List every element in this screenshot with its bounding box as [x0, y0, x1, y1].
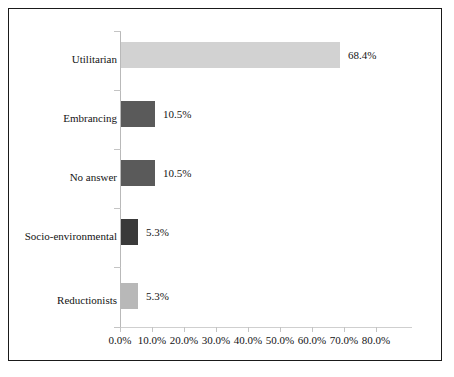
- category-label-no-answer: No answer: [0, 172, 117, 183]
- x-axis-line: [120, 327, 412, 328]
- chart-frame: Utilitarian 68.4% Embrancing 10.5% No an…: [8, 8, 442, 361]
- bar-value-embrancing: 10.5%: [163, 109, 191, 120]
- bar-no-answer: [121, 160, 155, 186]
- y-axis-tick: [114, 31, 121, 32]
- category-label-socio-environmental: Socio-environmental: [0, 231, 117, 242]
- y-axis-tick: [114, 208, 121, 209]
- x-axis-tick: [312, 327, 313, 332]
- bar-embrancing: [121, 101, 155, 127]
- category-label-utilitarian: Utilitarian: [0, 54, 117, 65]
- bar-value-reductionists: 5.3%: [146, 291, 169, 302]
- x-axis-tick: [152, 327, 153, 332]
- x-axis-tick: [216, 327, 217, 332]
- category-label-embrancing: Embrancing: [0, 113, 117, 124]
- bar-reductionists: [121, 283, 138, 309]
- x-axis-tick: [120, 327, 121, 332]
- plot-area: Utilitarian 68.4% Embrancing 10.5% No an…: [9, 9, 443, 362]
- bar-value-utilitarian: 68.4%: [348, 50, 376, 61]
- bar-utilitarian: [121, 42, 340, 68]
- bar-socio-environmental: [121, 219, 138, 245]
- category-label-reductionists: Reductionists: [0, 295, 117, 306]
- x-axis-tick: [280, 327, 281, 332]
- x-axis-tick: [376, 327, 377, 332]
- y-axis-tick: [114, 149, 121, 150]
- x-axis-label-80: 80.0%: [356, 335, 396, 346]
- x-axis-tick: [184, 327, 185, 332]
- bar-value-socio-environmental: 5.3%: [146, 227, 169, 238]
- bar-value-no-answer: 10.5%: [163, 168, 191, 179]
- x-axis-tick: [248, 327, 249, 332]
- x-axis-tick: [344, 327, 345, 332]
- y-axis-tick: [114, 267, 121, 268]
- y-axis-tick: [114, 90, 121, 91]
